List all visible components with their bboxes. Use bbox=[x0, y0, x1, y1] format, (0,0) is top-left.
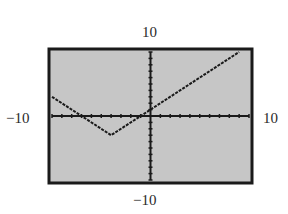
graph-screen bbox=[0, 0, 288, 214]
